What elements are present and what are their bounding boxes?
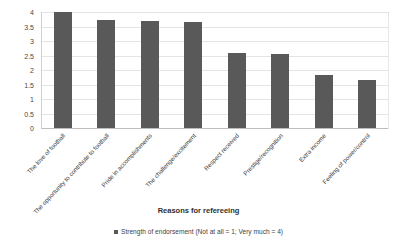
y-axis-tick: 3.5 bbox=[24, 23, 34, 30]
y-axis-tick: 0 bbox=[30, 125, 34, 132]
bar[interactable] bbox=[97, 20, 115, 128]
y-axis-tick: 2.5 bbox=[24, 52, 34, 59]
bar[interactable] bbox=[228, 53, 246, 128]
bar-chart: 4 3.5 3 2.5 2 1.5 1 0.5 0 bbox=[0, 0, 397, 252]
bar[interactable] bbox=[184, 22, 202, 128]
y-axis: 4 3.5 3 2.5 2 1.5 1 0.5 0 bbox=[0, 12, 37, 129]
y-axis-tick: 4 bbox=[30, 9, 34, 16]
cat-slot: Prestige/recognition bbox=[259, 130, 303, 202]
y-axis-tick: 1.5 bbox=[24, 81, 34, 88]
legend-swatch-icon bbox=[114, 230, 118, 234]
y-axis-tick: 2 bbox=[30, 67, 34, 74]
y-axis-tick: 1 bbox=[30, 96, 34, 103]
x-axis-tick-label: Extra income bbox=[297, 132, 327, 163]
bar[interactable] bbox=[141, 21, 159, 128]
bars-layer bbox=[41, 12, 389, 129]
y-axis-tick: 3 bbox=[30, 38, 34, 45]
bar[interactable] bbox=[315, 75, 333, 128]
cat-slot: Feeling of power/control bbox=[346, 130, 390, 202]
x-axis-tick-label: The love of football bbox=[25, 132, 66, 175]
bar[interactable] bbox=[54, 12, 72, 128]
y-axis-tick: 0.5 bbox=[24, 110, 34, 117]
bar[interactable] bbox=[358, 80, 376, 128]
legend: Strength of endorsement (Not at all = 1;… bbox=[0, 228, 397, 235]
x-axis-category-labels: The love of football The opportunity to … bbox=[41, 130, 389, 202]
x-axis-title: Reasons for refereeing bbox=[0, 206, 397, 215]
legend-label: Strength of endorsement (Not at all = 1;… bbox=[121, 228, 283, 235]
bar[interactable] bbox=[271, 54, 289, 128]
